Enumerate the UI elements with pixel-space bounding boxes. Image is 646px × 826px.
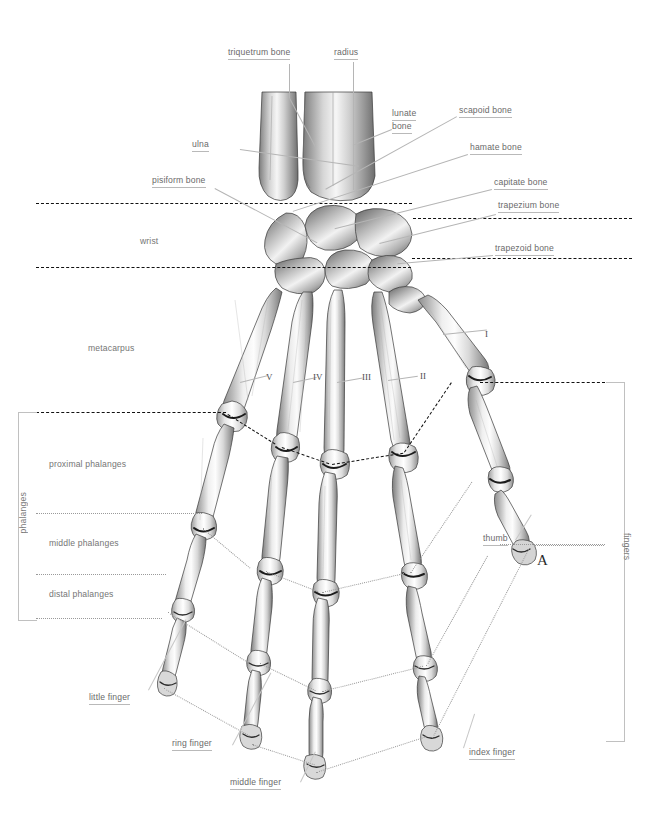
- numeral-i: I: [485, 329, 488, 339]
- label-wrist: wrist: [140, 236, 158, 247]
- label-scapoid-bone: scapoid bone: [459, 105, 512, 118]
- label-thumb: thumb: [483, 533, 508, 546]
- label-middle-finger: middle finger: [230, 777, 281, 790]
- guide-mark-a: [534, 545, 604, 546]
- label-pisiform-bone: pisiform bone: [152, 175, 206, 188]
- numeral-iv: IV: [313, 372, 323, 382]
- label-middle-phalanges: middle phalanges: [49, 538, 119, 549]
- label-ulna: ulna: [192, 139, 209, 152]
- guide-wrist-top: [36, 203, 412, 204]
- label-ring-finger: ring finger: [172, 738, 212, 751]
- label-lunate-line2: bone: [392, 121, 412, 134]
- guide-wrist-bottom: [36, 267, 411, 268]
- label-triquetrum-bone: triquetrum bone: [228, 47, 290, 60]
- label-metacarpus: metacarpus: [88, 343, 134, 354]
- guide-metacarpus-bottom-right: [480, 382, 605, 383]
- label-radius: radius: [334, 47, 358, 60]
- label-index-finger: index finger: [469, 747, 515, 760]
- guide-tip-left: [36, 618, 162, 619]
- phalanges-bracket-label: phalanges: [18, 492, 28, 533]
- label-lunate-line1: lunate: [392, 108, 416, 121]
- numeral-iii: III: [362, 372, 371, 382]
- label-lunate-bone: lunate bone: [392, 108, 438, 134]
- mark-a-label: A: [537, 552, 548, 569]
- label-trapezium-bone: trapezium bone: [498, 200, 559, 213]
- hand-skeleton-figure: phalanges fingers triquetrum bone radius…: [0, 0, 646, 826]
- numeral-ii: II: [420, 371, 426, 381]
- label-capitate-bone: capitate bone: [494, 177, 548, 190]
- fingers-bracket-label: fingers: [622, 533, 632, 560]
- label-distal-phalanges: distal phalanges: [49, 589, 114, 600]
- label-hamate-bone: hamate bone: [470, 142, 522, 155]
- numeral-v: V: [266, 372, 273, 382]
- guide-trapezium: [413, 218, 632, 219]
- guide-pip-left: [36, 513, 202, 514]
- leader-triquetrum-v: [289, 64, 290, 98]
- label-proximal-phalanges: proximal phalanges: [49, 459, 126, 470]
- label-little-finger: little finger: [89, 692, 130, 705]
- fingers-bracket: [606, 382, 625, 742]
- guide-mcp-left: [36, 412, 226, 413]
- leader-radius-v: [353, 62, 354, 190]
- guide-dip-left: [36, 574, 166, 575]
- label-trapezoid-bone: trapezoid bone: [495, 243, 554, 256]
